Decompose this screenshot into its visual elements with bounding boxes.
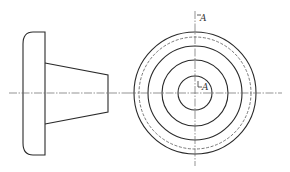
side-view	[9, 32, 128, 155]
section-label-center: A	[198, 81, 209, 92]
section-letter-top: A	[199, 13, 207, 23]
cone-outline	[45, 63, 108, 124]
technical-drawing: A A	[0, 0, 290, 172]
section-letter-center: A	[201, 82, 209, 92]
flange-outline	[23, 32, 45, 155]
section-label-top: A	[197, 13, 207, 23]
